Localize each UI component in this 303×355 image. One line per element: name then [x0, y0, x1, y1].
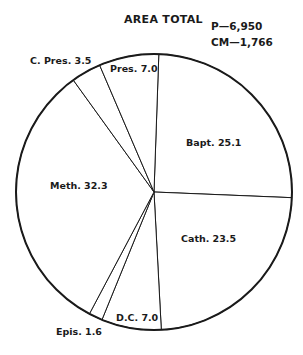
pie-slice-bapt — [154, 54, 292, 198]
pie-slice-cath — [154, 192, 292, 330]
slice-label-epis: Epis. 1.6 — [56, 326, 102, 337]
slice-label-pres: Pres. 7.0 — [110, 63, 158, 74]
slice-label-cpres: C. Pres. 3.5 — [30, 55, 91, 66]
slice-label-cath: Cath. 23.5 — [181, 233, 236, 244]
slice-label-bapt: Bapt. 25.1 — [186, 137, 241, 148]
slice-label-meth: Meth. 32.3 — [50, 180, 108, 191]
slice-label-dc: D.C. 7.0 — [116, 312, 158, 323]
pie-chart — [0, 0, 303, 355]
